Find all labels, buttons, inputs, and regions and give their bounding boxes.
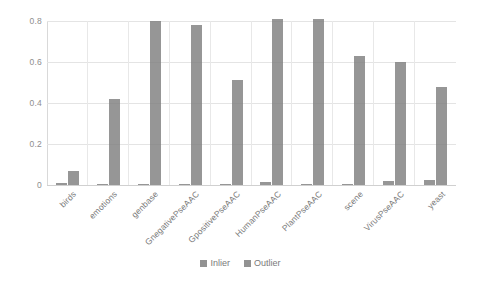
legend-swatch-icon <box>200 260 207 267</box>
bar-group <box>47 21 88 185</box>
y-axis-tick-label: 0.6 <box>12 57 42 67</box>
bar-inlier <box>56 183 67 185</box>
bar-outlier <box>150 21 161 185</box>
x-axis-line <box>47 185 456 186</box>
legend-item[interactable]: Outlier <box>244 259 281 268</box>
bar-inlier <box>424 180 435 185</box>
bar-inlier <box>220 184 231 185</box>
chart-legend: InlierOutlier <box>0 259 481 268</box>
bar-outlier <box>313 19 324 185</box>
bar-group <box>292 21 333 185</box>
bar-group <box>415 21 456 185</box>
y-axis-tick-label: 0.2 <box>12 139 42 149</box>
bar-group <box>252 21 293 185</box>
bar-groups <box>47 21 456 185</box>
bar-group <box>211 21 252 185</box>
bar-inlier <box>383 181 394 185</box>
bar-inlier <box>179 184 190 185</box>
x-axis-tick-label: genbase <box>130 189 161 220</box>
y-axis-tick-label: 0 <box>12 180 42 190</box>
x-axis-tick-label: yeast <box>425 189 447 211</box>
bar-chart: 00.20.40.60.8 birdsemotionsgenbaseGnegat… <box>0 0 481 282</box>
bar-group <box>333 21 374 185</box>
y-axis-tick-label: 0.8 <box>12 16 42 26</box>
bar-outlier <box>232 80 243 185</box>
legend-label: Outlier <box>254 259 281 268</box>
bar-outlier <box>272 19 283 185</box>
bar-inlier <box>260 182 271 185</box>
bar-group <box>88 21 129 185</box>
bar-group <box>129 21 170 185</box>
x-axis-tick-label: scene <box>341 189 364 212</box>
legend-swatch-icon <box>244 260 251 267</box>
bar-outlier <box>191 25 202 185</box>
x-axis-tick-label: VirusPseAAC <box>362 189 406 233</box>
bar-inlier <box>301 184 312 185</box>
bar-outlier <box>354 56 365 185</box>
bar-group <box>374 21 415 185</box>
bar-group <box>170 21 211 185</box>
bar-outlier <box>436 87 447 185</box>
bar-inlier <box>138 184 149 185</box>
bar-outlier <box>395 62 406 185</box>
x-axis-tick-label: birds <box>58 189 78 209</box>
bar-inlier <box>97 184 108 185</box>
legend-label: Inlier <box>210 259 230 268</box>
legend-item[interactable]: Inlier <box>200 259 230 268</box>
bar-outlier <box>68 171 79 185</box>
y-axis-ticks: 00.20.40.60.8 <box>8 21 42 185</box>
bar-inlier <box>342 184 353 185</box>
x-axis-tick-label: emotions <box>87 189 119 221</box>
bar-outlier <box>109 99 120 185</box>
x-axis-tick-label: PlantPseAAC <box>280 189 324 233</box>
y-axis-tick-label: 0.4 <box>12 98 42 108</box>
x-axis-labels: birdsemotionsgenbaseGnegativePseAACGposi… <box>47 187 456 257</box>
